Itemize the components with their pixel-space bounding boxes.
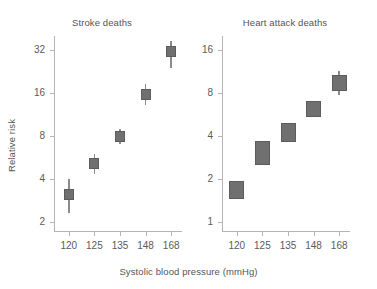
x-tick-label: 168 [151, 240, 191, 251]
y-tick: 16 [218, 50, 222, 51]
data-marker-point [64, 189, 74, 200]
data-marker-point [89, 158, 99, 169]
y-tick-label: 4 [207, 130, 213, 141]
data-marker-point [115, 131, 125, 142]
x-tick [314, 232, 315, 236]
x-tick [288, 232, 289, 236]
y-tick: 8 [50, 136, 54, 137]
data-marker-box [281, 123, 296, 142]
x-tick [69, 232, 70, 236]
y-tick-label: 2 [39, 216, 45, 227]
data-marker-box [229, 181, 244, 199]
plot-area-stroke-deaths: 2481632120125135148168 [54, 36, 182, 232]
y-tick: 2 [218, 179, 222, 180]
y-axis-line [222, 36, 223, 232]
y-tick-label: 8 [207, 87, 213, 98]
y-tick: 8 [218, 93, 222, 94]
y-tick-label: 2 [207, 173, 213, 184]
y-tick-label: 4 [39, 173, 45, 184]
x-tick [120, 232, 121, 236]
panel-stroke-deaths: Stroke deaths 2481632120125135148168 [12, 0, 192, 260]
x-axis-label: Systolic blood pressure (mmHg) [0, 266, 377, 277]
y-tick-label: 32 [34, 44, 45, 55]
x-tick [237, 232, 238, 236]
data-marker-box [332, 75, 347, 91]
x-tick [262, 232, 263, 236]
y-tick-label: 8 [39, 130, 45, 141]
panel-title-heart-attack-deaths: Heart attack deaths [196, 17, 374, 28]
data-marker-point [141, 89, 151, 100]
panel-title-stroke-deaths: Stroke deaths [12, 17, 192, 28]
plot-area-heart-attack-deaths: 124816120125135148168 [222, 36, 350, 232]
y-tick-label: 1 [207, 216, 213, 227]
x-tick [171, 232, 172, 236]
x-tick-label: 168 [319, 240, 359, 251]
figure: Relative risk Systolic blood pressure (m… [0, 0, 377, 289]
data-marker-point [166, 46, 176, 57]
x-tick [146, 232, 147, 236]
y-tick: 1 [218, 222, 222, 223]
x-tick [339, 232, 340, 236]
x-axis-line [54, 231, 182, 232]
y-axis-line [54, 36, 55, 232]
y-tick: 4 [50, 179, 54, 180]
x-tick [94, 232, 95, 236]
y-tick: 16 [50, 93, 54, 94]
y-tick: 2 [50, 222, 54, 223]
y-tick-label: 16 [34, 87, 45, 98]
data-marker-box [306, 101, 321, 117]
x-axis-line [222, 231, 350, 232]
y-tick: 4 [218, 136, 222, 137]
y-tick: 32 [50, 50, 54, 51]
panel-heart-attack-deaths: Heart attack deaths 12481612012513514816… [196, 0, 374, 260]
y-tick-label: 16 [202, 44, 213, 55]
data-marker-box [255, 141, 270, 165]
